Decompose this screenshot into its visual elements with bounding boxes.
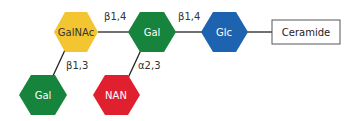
node-galnac-label: GalNAc xyxy=(58,27,94,38)
node-gal-top-label: Gal xyxy=(144,27,161,38)
link-label-a23: α2,3 xyxy=(138,60,161,71)
link-gal-galnac xyxy=(52,50,65,78)
link-label-b13: β1,3 xyxy=(66,60,88,71)
node-gal-bottom: Gal xyxy=(19,75,67,115)
node-gal-top: Gal xyxy=(128,12,176,52)
glycan-diagram: β1,4 β1,4 β1,3 α2,3 GalNAc Gal Glc Ceram… xyxy=(0,0,358,121)
node-nan: NAN xyxy=(93,75,140,115)
link-label-b14-b: β1,4 xyxy=(178,11,200,22)
node-ceramide-label: Ceramide xyxy=(282,27,330,38)
node-glc: Glc xyxy=(201,12,248,52)
node-gal-bottom-label: Gal xyxy=(35,90,52,101)
node-galnac: GalNAc xyxy=(54,12,98,52)
node-glc-label: Glc xyxy=(216,27,232,38)
node-nan-label: NAN xyxy=(105,90,127,101)
link-label-b14-a: β1,4 xyxy=(104,11,126,22)
node-ceramide: Ceramide xyxy=(272,20,340,44)
